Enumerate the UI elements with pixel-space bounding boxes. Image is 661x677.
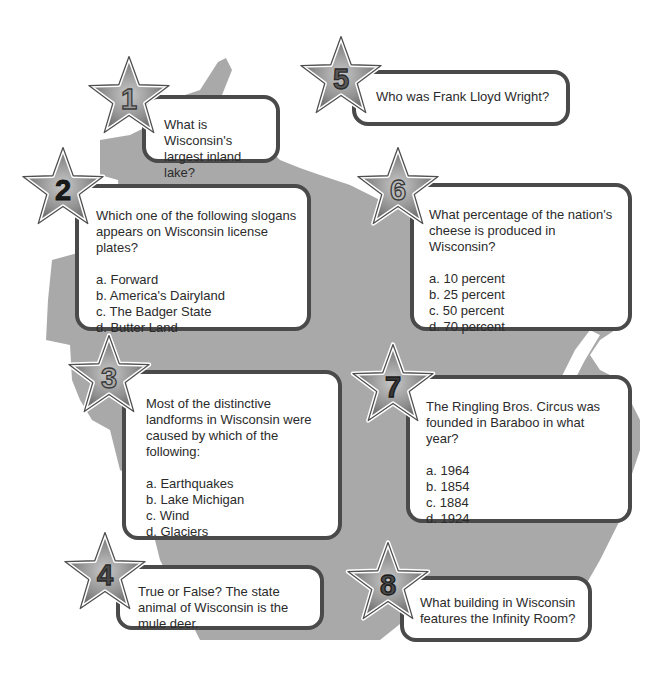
star-badge-3: 3 bbox=[66, 333, 152, 415]
question-text: Most of the distinctive landforms in Wis… bbox=[146, 396, 330, 460]
question-box-6: What percentage of the nation's cheese i… bbox=[410, 183, 632, 331]
question-box-7: The Ringling Bros. Circus was founded in… bbox=[406, 375, 632, 523]
star-number: 5 bbox=[333, 63, 349, 95]
star-badge-1: 1 bbox=[86, 54, 172, 136]
question-text: The Ringling Bros. Circus was founded in… bbox=[426, 399, 620, 447]
star-badge-7: 7 bbox=[350, 342, 436, 424]
star-number: 2 bbox=[55, 174, 71, 206]
star-badge-6: 6 bbox=[355, 145, 441, 227]
answer-options: a. 10 percent b. 25 percent c. 50 percen… bbox=[429, 271, 620, 335]
answer-option-d: d. 1924 bbox=[426, 511, 620, 527]
star-number: 4 bbox=[97, 559, 113, 591]
question-text: Which one of the following slogans appea… bbox=[96, 208, 297, 256]
star-number: 3 bbox=[101, 362, 117, 394]
answer-option-a: a. Forward bbox=[96, 272, 297, 288]
question-box-3: Most of the distinctive landforms in Wis… bbox=[122, 370, 342, 540]
question-text: True or False? The state animal of Wisco… bbox=[138, 584, 312, 632]
answer-option-a: a. Earthquakes bbox=[146, 476, 330, 492]
answer-option-b: b. 1854 bbox=[426, 479, 620, 495]
star-icon: 3 bbox=[66, 333, 152, 415]
answer-options: a. Earthquakes b. Lake Michigan c. Wind … bbox=[146, 476, 330, 540]
answer-option-c: c. Wind bbox=[146, 508, 330, 524]
star-icon: 8 bbox=[345, 540, 431, 622]
answer-option-b: b. Lake Michigan bbox=[146, 492, 330, 508]
question-text: What is Wisconsin's largest inland lake? bbox=[164, 117, 268, 181]
star-icon: 4 bbox=[62, 530, 148, 612]
answer-option-a: a. 1964 bbox=[426, 463, 620, 479]
answer-option-d: d. 70 percent bbox=[429, 319, 620, 335]
answer-options: a. 1964 b. 1854 c. 1884 d. 1924 bbox=[426, 463, 620, 527]
answer-option-c: c. 1884 bbox=[426, 495, 620, 511]
answer-option-b: b. America's Dairyland bbox=[96, 288, 297, 304]
answer-option-b: b. 25 percent bbox=[429, 287, 620, 303]
star-icon: 1 bbox=[86, 54, 172, 136]
question-box-5: Who was Frank Lloyd Wright? bbox=[352, 70, 570, 126]
question-text: What building in Wisconsin features the … bbox=[420, 595, 580, 627]
star-number: 6 bbox=[390, 174, 406, 206]
question-box-2: Which one of the following slogans appea… bbox=[75, 184, 311, 331]
question-text: Who was Frank Lloyd Wright? bbox=[376, 89, 558, 105]
star-badge-2: 2 bbox=[20, 145, 106, 227]
star-icon: 7 bbox=[350, 342, 436, 424]
star-badge-4: 4 bbox=[62, 530, 148, 612]
answer-options: a. Forward b. America's Dairyland c. The… bbox=[96, 272, 297, 336]
answer-option-a: a. 10 percent bbox=[429, 271, 620, 287]
answer-option-c: c. 50 percent bbox=[429, 303, 620, 319]
answer-option-c: c. The Badger State bbox=[96, 304, 297, 320]
star-icon: 6 bbox=[355, 145, 441, 227]
star-icon: 5 bbox=[298, 34, 384, 116]
star-badge-5: 5 bbox=[298, 34, 384, 116]
star-number: 1 bbox=[121, 83, 137, 115]
answer-option-d: d. Glaciers bbox=[146, 524, 330, 540]
star-badge-8: 8 bbox=[345, 540, 431, 622]
star-icon: 2 bbox=[20, 145, 106, 227]
star-number: 7 bbox=[385, 371, 401, 403]
question-text: What percentage of the nation's cheese i… bbox=[429, 207, 620, 255]
star-number: 8 bbox=[380, 569, 396, 601]
